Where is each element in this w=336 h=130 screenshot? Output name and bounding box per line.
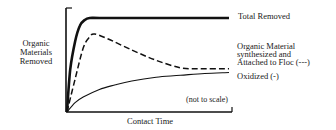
legend-label-oxidized: Oxidized (-) [237, 71, 279, 81]
y-axis-label-line-3: Removed [20, 56, 53, 66]
chart: Organic Materials Removed Contact Time (… [0, 0, 336, 130]
not-to-scale-annotation: (not to scale) [186, 95, 228, 104]
legend-label-total-removed: Total Removed [238, 11, 291, 21]
series-line-2 [67, 73, 229, 113]
legend-label-synthesized-line-3: Attached to Floc (---) [237, 57, 310, 67]
x-axis-label: Contact Time [127, 116, 173, 126]
